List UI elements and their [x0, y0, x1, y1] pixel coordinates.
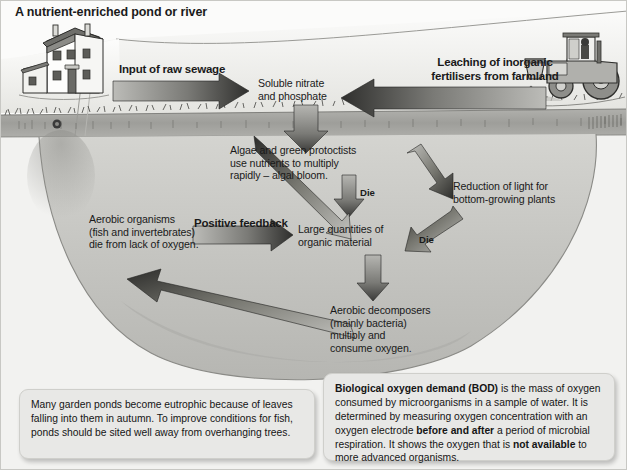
arrow-bloom-to-light [407, 144, 453, 199]
note-bod-bold-end: not available [513, 439, 575, 450]
arrow-decomposers-to-aerobic [127, 269, 355, 338]
arrow-label-input-raw-sewage: Input of raw sewage [119, 63, 225, 77]
arrow-label-positive-feedback: Positive feedback [194, 217, 288, 231]
node-organic-material: Large quantities of organic material [298, 223, 383, 248]
node-aerobic-decomposers: Aerobic decomposers (mainly bacteria) mu… [330, 304, 431, 354]
node-reduction-of-light: Reduction of light for bottom-growing pl… [453, 180, 555, 205]
note-bod-bold-mid: before and after [416, 425, 494, 436]
arrow-leaching-fertilisers [341, 79, 546, 117]
eutrophication-diagram: A nutrient-enriched pond or river Input … [0, 0, 627, 470]
note-garden-ponds: Many garden ponds become eutrophic becau… [19, 389, 315, 459]
arrow-die-right [405, 206, 463, 252]
arrow-label-die-right: Die [419, 234, 434, 245]
arrow-organic-to-decomposers [357, 255, 389, 301]
note-bod-lead: Biological oxygen demand (BOD) [335, 383, 498, 394]
note-garden-ponds-text: Many garden ponds become eutrophic becau… [31, 399, 293, 438]
figure-title: A nutrient-enriched pond or river [15, 5, 207, 20]
arrow-label-die-upper: Die [360, 187, 375, 198]
node-algal-bloom: Algae and green protoctists use nutrient… [230, 144, 356, 182]
node-soluble-nitrate-phosphate: Soluble nitrate and phosphate [258, 77, 327, 102]
arrow-input-raw-sewage [113, 73, 249, 109]
note-bod: Biological oxygen demand (BOD) is the ma… [323, 373, 615, 461]
node-aerobic-organisms: Aerobic organisms (fish and invertebrate… [89, 213, 198, 251]
arrow-label-leaching: Leaching of inorganic fertilisers from f… [395, 56, 595, 83]
